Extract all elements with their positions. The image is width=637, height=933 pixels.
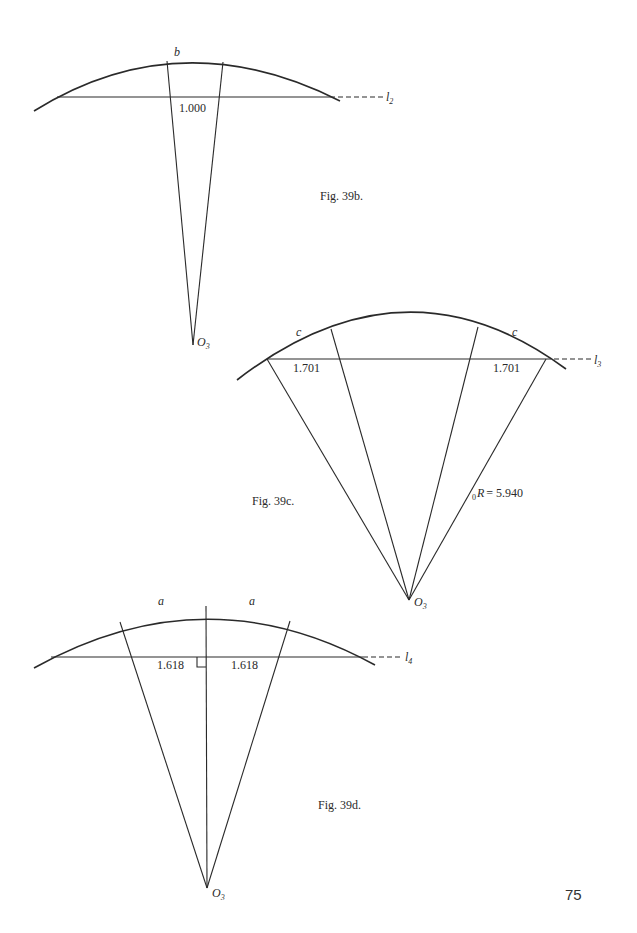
radius-2-39c [331, 329, 409, 600]
page-canvas: b 1.000 l2 O3 Fig. 39b. c c 1.701 1.701 … [0, 0, 637, 933]
radius-center-39d [206, 606, 207, 888]
radius-3-39c [409, 327, 478, 600]
chord-value-39c-left: 1.701 [293, 361, 320, 375]
line-label-l3: l3 [594, 353, 601, 369]
arc-label-c-right: c [512, 325, 518, 339]
figure-39d: a a 1.618 1.618 l4 O3 Fig. 39d. [34, 594, 412, 902]
chord-value-39d-right: 1.618 [231, 658, 258, 672]
arc-39d [34, 619, 375, 668]
line-label-l2: l2 [386, 90, 393, 106]
figure-39b: b 1.000 l2 O3 Fig. 39b. [34, 45, 393, 351]
radius-1-39c [267, 359, 409, 600]
page-number: 75 [565, 886, 582, 903]
arc-label-a-left: a [158, 594, 164, 608]
chord-value-39d-left: 1.618 [157, 658, 184, 672]
caption-39d: Fig. 39d. [318, 798, 361, 812]
center-label-o3-39b: O3 [197, 335, 210, 351]
arc-label-a-right: a [249, 594, 255, 608]
caption-39b: Fig. 39b. [320, 189, 363, 203]
arc-label-b: b [174, 45, 180, 59]
right-angle-marker [197, 657, 206, 667]
caption-39c: Fig. 39c. [252, 494, 294, 508]
chord-value-39b: 1.000 [179, 101, 206, 115]
arc-label-c-left: c [296, 325, 302, 339]
figure-39c: c c 1.701 1.701 l3 0R= 5.940 O3 Fig. 39c… [237, 312, 601, 611]
center-label-o3-39d: O3 [212, 886, 225, 902]
radius-label: 0R= 5.940 [472, 486, 523, 502]
line-label-l4: l4 [405, 650, 412, 666]
center-label-o3-39c: O3 [414, 595, 427, 611]
radius-4-39c [409, 359, 546, 600]
chord-value-39c-right: 1.701 [493, 361, 520, 375]
